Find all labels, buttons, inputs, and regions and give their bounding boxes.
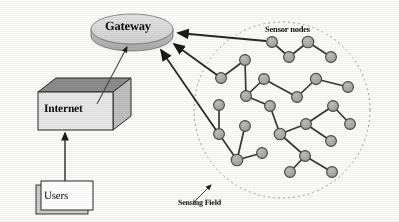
field-to-gateway-arrow [178,33,266,41]
sensor-node [257,148,268,159]
sensor-node [241,91,252,102]
internet-label: Internet [44,103,83,115]
sensor-node [259,74,270,85]
sensor-node [214,100,225,111]
sensor-node [231,154,243,166]
sensor-node [327,167,338,178]
sensor-node [328,101,339,112]
sensor-node [310,73,321,84]
sensor-node [265,101,276,112]
sensor-node [302,36,314,48]
sensor-node [343,82,354,93]
sensor-node-group [214,36,356,177]
sensing-field-label: Sensing Field [178,198,221,207]
sensor-node [284,52,295,63]
sensor-node [267,37,278,48]
sensor-node [326,136,337,147]
sensor-node [285,167,296,178]
sensor-node [301,119,312,130]
sensor-node [274,128,286,140]
gateway-label: Gateway [105,19,151,34]
figure-canvas: Gateway Internet Users Sensor nodes Sens… [0,0,399,222]
sensor-node [326,52,337,63]
sensor-nodes-label: Sensor nodes [265,24,310,34]
field-to-gateway-arrow-group [161,33,266,130]
sensor-node [292,92,303,103]
sensor-node [240,55,251,66]
sensor-node [240,121,251,132]
sensor-node [300,151,311,162]
sensor-node [345,119,356,130]
users-label: Users [44,190,68,202]
field-to-gateway-arrow [174,44,217,75]
